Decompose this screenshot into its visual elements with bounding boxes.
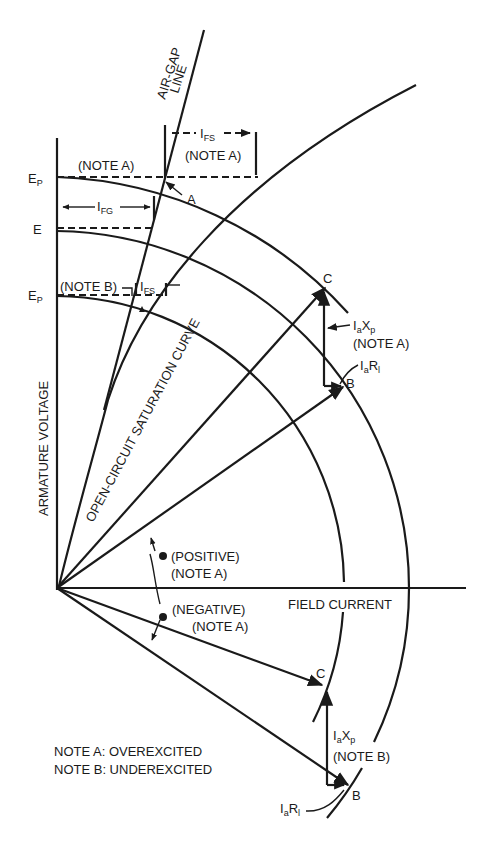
e-label: E xyxy=(33,222,42,237)
angle-arc xyxy=(150,554,160,604)
negative-label: (NEGATIVE) xyxy=(172,602,245,617)
phasor-diagram: EP E EP (NOTE A) (NOTE B) IFS (NOTE A) I… xyxy=(0,0,489,842)
legend-note-a: NOTE A: OVEREXCITED xyxy=(54,744,202,759)
note-a-top-label: (NOTE A) xyxy=(78,158,134,173)
point-c-bottom-label: C xyxy=(316,666,325,681)
positive-note: (NOTE A) xyxy=(171,566,227,581)
iarl-top-label: IaRl xyxy=(360,358,380,375)
point-b-top-label: B xyxy=(346,376,355,391)
iarl-bottom-pointer xyxy=(306,790,344,811)
note-b-left-label: (NOTE B) xyxy=(60,279,117,294)
point-a-label: A xyxy=(187,192,196,207)
positive-label: (POSITIVE) xyxy=(171,549,240,564)
positive-arrow xyxy=(151,538,155,551)
ep-top-label: EP xyxy=(28,171,43,188)
legend-note-b: NOTE B: UNDEREXCITED xyxy=(54,762,212,777)
iaxp-bottom-note: (NOTE B) xyxy=(333,749,390,764)
ifs-bottom-label: IFS xyxy=(140,279,155,296)
iaxp-bottom-label: IaXp xyxy=(333,728,355,745)
ep-bottom-label: EP xyxy=(28,288,43,305)
iaxp-top-note: (NOTE A) xyxy=(353,336,409,351)
point-a-arrow xyxy=(166,182,182,195)
negative-note: (NOTE A) xyxy=(192,619,248,634)
ifs-top-label: IFS xyxy=(200,126,215,143)
iaxp-top-label: IaXp xyxy=(353,318,375,335)
negative-dot xyxy=(159,613,167,621)
y-axis-label: ARMATURE VOLTAGE xyxy=(36,381,51,516)
x-axis-label: FIELD CURRENT xyxy=(288,597,392,612)
ifs-top-note: (NOTE A) xyxy=(185,148,241,163)
iarl-bottom-label: IaRl xyxy=(280,801,300,818)
ifg-label: IFG xyxy=(97,199,113,216)
iaxp-top-pointer xyxy=(328,325,350,328)
positive-dot xyxy=(159,552,167,560)
point-c-top-label: C xyxy=(323,271,332,286)
point-b-bottom-label: B xyxy=(352,788,361,803)
